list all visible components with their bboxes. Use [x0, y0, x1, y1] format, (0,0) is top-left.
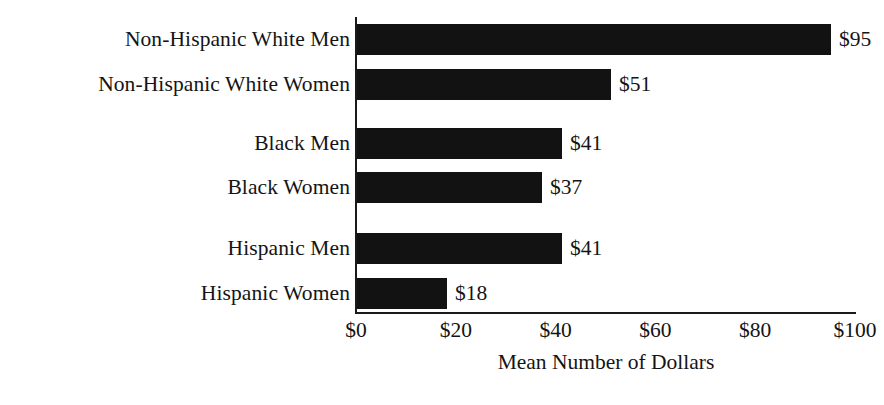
bar-row: Hispanic Women$18 — [0, 277, 884, 310]
bar-chart: Non-Hispanic White Men$95Non-Hispanic Wh… — [0, 0, 884, 405]
bar-value-label: $41 — [570, 127, 602, 160]
bar-value-label: $51 — [619, 68, 651, 101]
x-tick-label: $60 — [639, 316, 671, 344]
bar — [357, 69, 611, 100]
bar — [357, 172, 542, 203]
bar — [357, 24, 831, 55]
x-tick-label: $0 — [345, 316, 367, 344]
bar-category-label: Hispanic Women — [201, 277, 350, 310]
bar-row: Black Women$37 — [0, 171, 884, 204]
bar-value-label: $18 — [455, 277, 487, 310]
x-tick-label: $20 — [440, 316, 472, 344]
bar-value-label: $37 — [550, 171, 582, 204]
bar-value-label: $41 — [570, 232, 602, 265]
x-axis-title: Mean Number of Dollars — [356, 348, 856, 376]
bar-row: Black Men$41 — [0, 127, 884, 160]
bar — [357, 128, 562, 159]
bar-row: Hispanic Men$41 — [0, 232, 884, 265]
plot-area: Non-Hispanic White Men$95Non-Hispanic Wh… — [0, 0, 884, 405]
bar — [357, 233, 562, 264]
category-axis-line — [355, 17, 357, 314]
bar-category-label: Black Men — [254, 127, 350, 160]
bar-category-label: Hispanic Men — [228, 232, 350, 265]
bar-category-label: Non-Hispanic White Women — [98, 68, 350, 101]
x-tick-label: $40 — [539, 316, 571, 344]
value-axis-line — [355, 312, 856, 314]
bar-row: Non-Hispanic White Women$51 — [0, 68, 884, 101]
x-tick-label: $80 — [739, 316, 771, 344]
bar-category-label: Black Women — [227, 171, 350, 204]
bar-value-label: $95 — [839, 23, 871, 56]
bar-row: Non-Hispanic White Men$95 — [0, 23, 884, 56]
bar — [357, 278, 447, 309]
bar-category-label: Non-Hispanic White Men — [125, 23, 350, 56]
x-tick-label: $100 — [834, 316, 877, 344]
